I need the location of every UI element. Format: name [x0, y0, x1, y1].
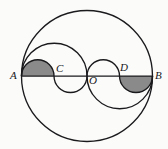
geometry-canvas [0, 0, 168, 149]
semicircle-CO-lower [54, 76, 87, 93]
shaded-lune-right [120, 76, 153, 93]
shaded-lune-left [22, 60, 55, 76]
point-label-a: A [10, 70, 17, 81]
point-label-d: D [120, 62, 128, 73]
geometry-figure: A C O D B [0, 0, 168, 149]
point-label-b: B [155, 70, 162, 81]
point-label-o: O [89, 75, 97, 86]
point-label-c: C [56, 63, 63, 74]
